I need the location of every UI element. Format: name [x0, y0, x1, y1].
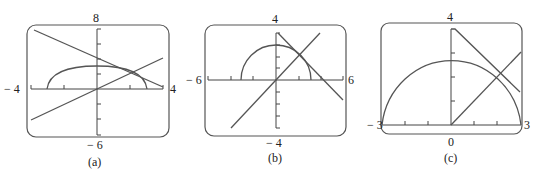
- panel-c-caption: (c): [444, 152, 457, 164]
- panel-c-line-decreasing: [451, 29, 520, 92]
- panel-c-ymax-label: 4: [447, 11, 453, 23]
- panel-b-caption: (b): [268, 152, 282, 164]
- panel-a: [27, 25, 169, 137]
- panel-a-frame: [27, 25, 169, 137]
- panel-c-xmax-label: 3: [524, 119, 530, 131]
- panel-b-ymax-label: 4: [272, 13, 278, 25]
- panel-b-xmax-label: 6: [348, 74, 354, 86]
- panel-a-caption: (a): [88, 156, 101, 168]
- panel-c-ymin-label: 0: [448, 136, 454, 148]
- panel-c: [381, 23, 522, 134]
- panel-c-line-increasing: [451, 52, 521, 125]
- panel-a-xmax-label: 4: [170, 83, 176, 95]
- panel-c-xmin-label: − 3: [367, 119, 383, 131]
- panel-a-ymin-label: − 6: [87, 139, 103, 151]
- panel-b-xmin-label: − 6: [186, 74, 202, 86]
- panel-a-line-decreasing: [34, 30, 163, 87]
- panel-b-ymin-label: − 4: [266, 137, 282, 149]
- panel-a-y-ticks: [97, 29, 101, 135]
- panel-a-ymax-label: 8: [93, 12, 99, 24]
- panel-a-xmin-label: − 4: [4, 83, 20, 95]
- panel-b: [205, 25, 346, 136]
